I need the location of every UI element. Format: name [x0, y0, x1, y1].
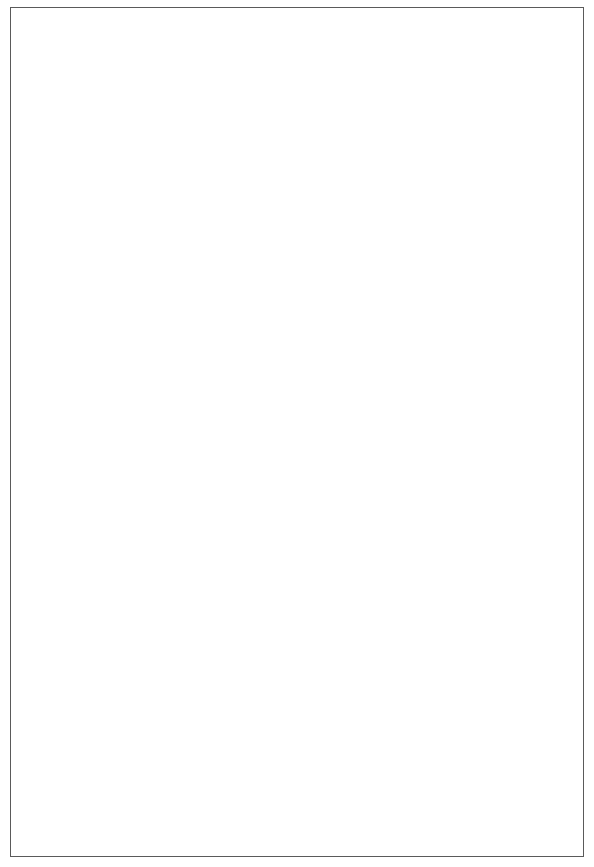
figure-page: [0, 0, 594, 867]
chart-million-pounds: [0, 10, 594, 440]
chart-bottom-canvas: [0, 443, 594, 858]
chart-cents-per-pound: [0, 443, 594, 858]
chart-top-canvas: [0, 10, 594, 440]
